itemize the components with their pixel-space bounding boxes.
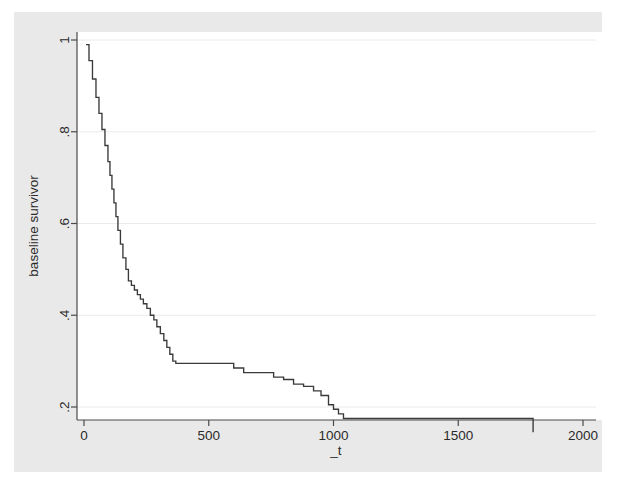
axes-group [77, 32, 596, 420]
x-axis-title: _t [329, 443, 342, 458]
chart-svg: .2.4.6.81 0500100015002000 baseline surv… [0, 0, 622, 486]
x-ticks-group: 0500100015002000 [80, 420, 598, 443]
series-group [86, 45, 533, 433]
y-tick-label-.6: .6 [57, 218, 72, 229]
y-tick-label-.4: .4 [57, 309, 72, 321]
gridlines-group [77, 40, 596, 407]
x-tick-label-500: 500 [197, 428, 220, 443]
x-tick-label-0: 0 [80, 428, 88, 443]
y-axis-title: baseline survivor [26, 175, 41, 277]
y-tick-label-1: 1 [57, 36, 72, 44]
x-tick-label-2000: 2000 [568, 428, 598, 443]
baseline-survivor-line [86, 45, 533, 433]
x-tick-label-1000: 1000 [318, 428, 348, 443]
x-tick-label-1500: 1500 [443, 428, 473, 443]
y-ticks-group: .2.4.6.81 [57, 36, 77, 412]
y-tick-label-.2: .2 [57, 401, 72, 412]
y-tick-label-.8: .8 [57, 126, 72, 137]
